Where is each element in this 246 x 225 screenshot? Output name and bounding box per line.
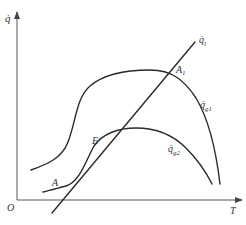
- heat-balance-diagram: q̇ O T q̇l q̇g1 q̇g2 A1 E A: [0, 0, 246, 225]
- heat-gen-curve-1: [31, 70, 220, 184]
- y-axis-label: q̇: [5, 12, 11, 24]
- point-A1-label: A1: [175, 64, 186, 77]
- heat-gen-1-label: q̇g1: [200, 99, 212, 113]
- origin-label: O: [7, 202, 14, 213]
- point-A-label: A: [51, 177, 59, 188]
- heat-loss-line: [52, 42, 195, 213]
- point-E-label: E: [91, 135, 98, 146]
- heat-loss-label: q̇l: [199, 34, 206, 48]
- heat-gen-2-label: q̇g2: [168, 143, 181, 157]
- x-axis-label: T: [230, 205, 237, 216]
- heat-gen-curve-2: [43, 128, 212, 192]
